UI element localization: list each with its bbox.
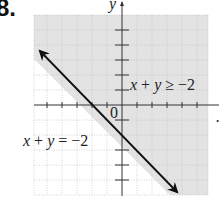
origin-label: 0 — [110, 104, 118, 121]
inequality-label: x + y ≥ −2 — [129, 76, 195, 94]
x-axis-label: . — [216, 108, 219, 125]
y-axis-arrow-icon — [120, 1, 124, 6]
y-axis-label: y — [107, 0, 117, 13]
graph: y . 0 x + y ≥ −2 x + y = −2 — [0, 0, 219, 198]
equation-label: x + y = −2 — [22, 132, 88, 150]
